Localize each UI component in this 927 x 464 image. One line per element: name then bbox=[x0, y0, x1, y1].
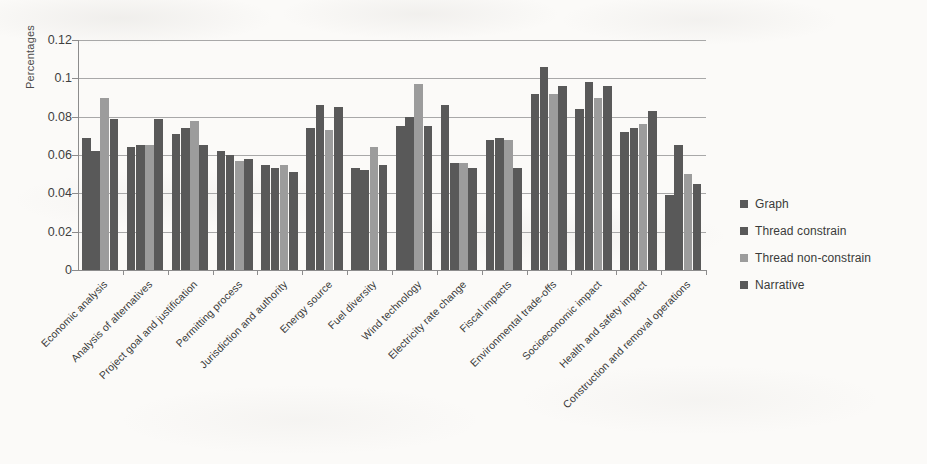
bar bbox=[370, 147, 379, 270]
bar bbox=[414, 84, 423, 270]
bar bbox=[199, 145, 208, 270]
bar bbox=[486, 140, 495, 270]
bar bbox=[585, 82, 594, 270]
x-axis-tick-mark bbox=[661, 271, 662, 275]
legend-label: Graph bbox=[755, 197, 789, 211]
x-axis-tick-mark bbox=[123, 271, 124, 275]
legend-item: Narrative bbox=[740, 271, 871, 298]
x-axis-category-label: Analysis of alternatives bbox=[69, 278, 155, 364]
legend-label: Narrative bbox=[755, 278, 805, 292]
x-axis-tick-mark bbox=[706, 271, 707, 275]
x-axis-category-label: Jurisdiction and authority bbox=[197, 278, 289, 370]
bar bbox=[325, 130, 334, 270]
y-axis-line bbox=[78, 40, 79, 271]
legend-swatch-icon bbox=[740, 200, 748, 208]
legend-label: Thread constrain bbox=[755, 224, 847, 238]
y-axis-tick-label: 0 bbox=[65, 263, 72, 277]
bar bbox=[674, 145, 683, 270]
bar bbox=[648, 111, 657, 270]
x-axis-category-label: Socioeconomic impact bbox=[519, 278, 603, 362]
y-axis-tick-label: 0.02 bbox=[48, 225, 72, 239]
bar bbox=[136, 145, 145, 270]
x-axis-category-label: Electricity rate change bbox=[385, 278, 468, 361]
legend-item: Thread non-constrain bbox=[740, 244, 871, 271]
y-axis-tick-label: 0.08 bbox=[48, 110, 72, 124]
y-axis-tick-label: 0.12 bbox=[48, 33, 72, 47]
bar bbox=[558, 86, 567, 270]
bar bbox=[630, 128, 639, 270]
x-axis-tick-mark bbox=[302, 271, 303, 275]
x-axis-tick-mark bbox=[527, 271, 528, 275]
bar bbox=[280, 165, 289, 270]
bar bbox=[289, 172, 298, 270]
x-axis-tick-mark bbox=[616, 271, 617, 275]
bar bbox=[603, 86, 612, 270]
bar bbox=[172, 134, 181, 270]
bar bbox=[504, 140, 513, 270]
bar bbox=[379, 165, 388, 270]
gridline bbox=[78, 117, 706, 118]
bar bbox=[575, 109, 584, 270]
bar bbox=[154, 119, 163, 270]
bar bbox=[100, 98, 109, 271]
legend-item: Thread constrain bbox=[740, 217, 871, 244]
x-axis-tick-mark bbox=[437, 271, 438, 275]
x-axis-tick-mark bbox=[571, 271, 572, 275]
chart-legend: GraphThread constrainThread non-constrai… bbox=[740, 190, 871, 298]
bar bbox=[424, 126, 433, 270]
y-axis-tick-label: 0.1 bbox=[55, 71, 72, 85]
x-axis-category-label: Health and safety impact bbox=[556, 278, 648, 370]
bar bbox=[540, 67, 549, 270]
bar bbox=[235, 161, 244, 270]
legend-swatch-icon bbox=[740, 227, 748, 235]
bar-chart: Percentages 00.020.040.060.080.10.12 Eco… bbox=[0, 0, 927, 464]
bar bbox=[244, 159, 253, 270]
y-axis-tick-label: 0.06 bbox=[48, 148, 72, 162]
bar bbox=[594, 98, 603, 271]
bar bbox=[665, 195, 674, 270]
x-axis-tick-mark bbox=[257, 271, 258, 275]
bar bbox=[110, 119, 119, 270]
bar bbox=[127, 147, 136, 270]
bar bbox=[405, 117, 414, 270]
bar bbox=[549, 94, 558, 270]
bar bbox=[334, 107, 343, 270]
bar bbox=[468, 168, 477, 270]
legend-swatch-icon bbox=[740, 254, 748, 262]
bar bbox=[396, 126, 405, 270]
gridline bbox=[78, 40, 706, 41]
bar bbox=[693, 184, 702, 270]
x-axis-tick-mark bbox=[168, 271, 169, 275]
bar bbox=[145, 145, 154, 270]
bar bbox=[217, 151, 226, 270]
gridline bbox=[78, 78, 706, 79]
legend-label: Thread non-constrain bbox=[755, 251, 871, 265]
x-axis-tick-mark bbox=[392, 271, 393, 275]
bar bbox=[261, 165, 270, 270]
bar bbox=[91, 151, 100, 270]
bar bbox=[271, 168, 280, 270]
bar bbox=[226, 155, 235, 270]
bar bbox=[441, 105, 450, 270]
legend-swatch-icon bbox=[740, 281, 748, 289]
bar bbox=[459, 163, 468, 270]
bar bbox=[620, 132, 629, 270]
bar bbox=[181, 128, 190, 270]
y-axis-tick-labels: 00.020.040.060.080.10.12 bbox=[34, 0, 72, 464]
bar bbox=[316, 105, 325, 270]
y-axis-tick-label: 0.04 bbox=[48, 186, 72, 200]
x-axis-category-label: Environmental trade-offs bbox=[467, 278, 558, 369]
bar bbox=[513, 168, 522, 270]
bar bbox=[495, 138, 504, 270]
bar bbox=[190, 121, 199, 271]
bar bbox=[531, 94, 540, 270]
legend-item: Graph bbox=[740, 190, 871, 217]
bar bbox=[306, 128, 315, 270]
bar bbox=[351, 168, 360, 270]
x-axis-tick-mark bbox=[347, 271, 348, 275]
bar bbox=[82, 138, 91, 270]
bar bbox=[450, 163, 459, 270]
x-axis-tick-mark bbox=[213, 271, 214, 275]
bar bbox=[684, 174, 693, 270]
bar bbox=[360, 170, 369, 270]
